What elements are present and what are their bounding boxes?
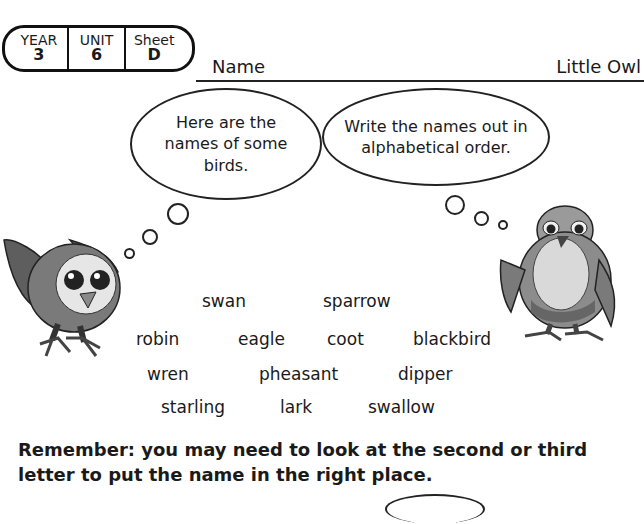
- bird-word: coot: [327, 329, 364, 349]
- bubble-right-text: Write the names out in alphabetical orde…: [342, 116, 530, 158]
- year-value: 3: [33, 47, 44, 64]
- worksheet-title: Little Owl: [556, 56, 641, 77]
- name-write-line[interactable]: [196, 80, 644, 82]
- thought-dot-small-left: [124, 248, 135, 259]
- year-unit-sheet-badge: YEAR 3 UNIT 6 Sheet D: [2, 25, 195, 72]
- thought-bubble-right: Write the names out in alphabetical orde…: [322, 88, 550, 186]
- unit-value: 6: [91, 47, 102, 64]
- bottom-bubble-arc: [385, 494, 485, 524]
- bird-word: starling: [161, 397, 225, 417]
- bird-word: wren: [147, 364, 189, 384]
- owl-illustration: [0, 220, 125, 360]
- bird-word: pheasant: [259, 364, 338, 384]
- sheet-value: D: [148, 47, 161, 64]
- thought-dot-medium-right: [474, 211, 489, 226]
- thought-dot-large-right: [445, 195, 465, 215]
- thought-dot-medium-left: [142, 229, 158, 245]
- bird-word: swan: [202, 291, 246, 311]
- instruction-text: Remember: you may need to look at the se…: [18, 437, 644, 487]
- bird-word: robin: [136, 329, 179, 349]
- thought-bubble-left: Here are the names of some birds.: [130, 88, 322, 200]
- kestrel-illustration: [495, 200, 625, 345]
- bird-word: swallow: [368, 397, 435, 417]
- bird-word: lark: [280, 397, 312, 417]
- thought-dot-large-left: [167, 203, 189, 225]
- sheet-cell: Sheet D: [126, 28, 192, 69]
- year-cell: YEAR 3: [5, 28, 69, 69]
- unit-cell: UNIT 6: [69, 28, 127, 69]
- bubble-left-text: Here are the names of some birds.: [154, 112, 298, 175]
- name-label: Name: [212, 56, 265, 77]
- bird-word: dipper: [398, 364, 453, 384]
- bird-word: sparrow: [323, 291, 391, 311]
- bird-word: eagle: [238, 329, 285, 349]
- bird-word: blackbird: [413, 329, 491, 349]
